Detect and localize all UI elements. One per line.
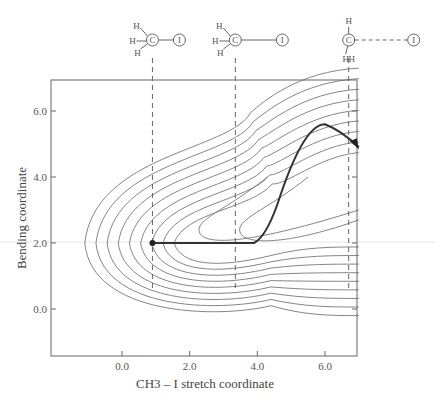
contour-line: [240, 177, 359, 241]
molecule-diagrams: CIHHHCIHHHCIHHH: [129, 16, 419, 64]
potential-energy-contour-chart: 0.02.04.06.0 0.02.04.06.0 CIHHHCIHHHCIHH…: [0, 0, 435, 403]
carbon-label: C: [149, 35, 155, 45]
y-tick-label: 0.0: [33, 303, 47, 315]
y-axis-title: Bending coordinate: [14, 167, 29, 269]
hydrogen-label: H: [129, 36, 136, 46]
x-tick-label: 0.0: [115, 360, 129, 372]
iodine-label: I: [412, 35, 415, 45]
trajectory-path: [152, 124, 358, 243]
contour-line: [107, 89, 359, 299]
c-h-bond: [223, 28, 230, 36]
c-h-bond: [140, 44, 147, 49]
x-tick-label: 6.0: [318, 360, 332, 372]
reference-lines: [152, 58, 348, 290]
c-h-bond: [140, 28, 147, 36]
contour-line: [141, 121, 359, 281]
hydrogen-label: H: [134, 48, 141, 58]
hydrogen-label: H: [212, 36, 219, 46]
x-axis-ticks: 0.02.04.06.0: [115, 351, 332, 372]
c-h-bond: [346, 46, 348, 54]
trajectory-start-point: [149, 240, 155, 246]
hydrogen-label: H: [216, 21, 223, 31]
c-h-bond: [223, 44, 230, 49]
y-tick-label: 6.0: [33, 105, 47, 117]
x-tick-label: 4.0: [250, 360, 264, 372]
y-tick-label: 2.0: [33, 237, 47, 249]
y-tick-label: 4.0: [33, 171, 47, 183]
carbon-label: C: [232, 35, 238, 45]
hydrogen-label: H: [348, 54, 355, 64]
hydrogen-label: H: [345, 16, 352, 26]
x-axis-title: CH3 – I stretch coordinate: [136, 376, 274, 391]
hydrogen-label: H: [217, 48, 224, 58]
contour-line: [174, 153, 359, 264]
contour-line: [152, 131, 359, 275]
iodine-label: I: [178, 35, 181, 45]
contour-line: [199, 177, 359, 240]
contour-lines: [85, 68, 359, 316]
carbon-label: C: [346, 35, 352, 45]
hydrogen-label: H: [133, 21, 140, 31]
iodine-label: I: [281, 35, 284, 45]
x-tick-label: 2.0: [183, 360, 197, 372]
reaction-trajectory: [149, 124, 358, 246]
